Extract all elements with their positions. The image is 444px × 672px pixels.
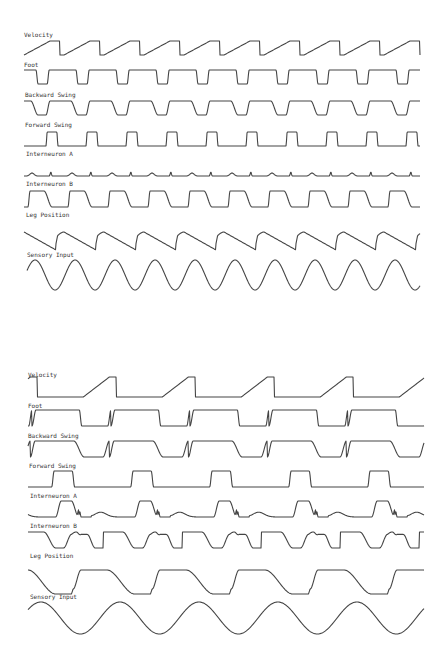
trace-sensory-input xyxy=(28,602,424,634)
trace-interneuron-a xyxy=(28,501,424,517)
trace-leg-position xyxy=(28,570,424,594)
label-foot: Foot xyxy=(24,61,39,68)
trace-backward-swing xyxy=(28,441,424,457)
trace-foot xyxy=(24,70,420,84)
label-leg-position: Leg Position xyxy=(26,211,70,219)
trace-foot xyxy=(28,410,424,426)
label-velocity: Velocity xyxy=(24,31,53,39)
trace-backward-swing xyxy=(24,101,420,115)
trace-velocity xyxy=(28,377,424,397)
label-leg-position: Leg Position xyxy=(30,552,74,560)
label-foot: Foot xyxy=(28,402,43,409)
label-interneuron-b: Interneuron B xyxy=(30,522,77,529)
trace-velocity xyxy=(24,41,420,55)
trace-interneuron-a xyxy=(24,172,420,176)
top-panel: Velocity Foot Backward Swing Forward Swi… xyxy=(24,31,420,290)
trace-figure: Velocity Foot Backward Swing Forward Swi… xyxy=(0,0,444,672)
label-interneuron-b: Interneuron B xyxy=(26,180,73,187)
trace-sensory-input xyxy=(27,260,420,290)
label-forward-swing: Forward Swing xyxy=(25,121,72,129)
label-backward-swing: Backward Swing xyxy=(28,432,79,440)
trace-interneuron-b xyxy=(28,532,424,548)
label-interneuron-a: Interneuron A xyxy=(26,150,73,157)
label-velocity: Velocity xyxy=(28,371,57,379)
trace-interneuron-b xyxy=(24,191,420,207)
label-forward-swing: Forward Swing xyxy=(29,462,76,470)
bottom-panel: Velocity Foot Backward Swing Forward Swi… xyxy=(28,371,424,634)
trace-leg-position xyxy=(24,232,420,250)
label-sensory-input: Sensory Input xyxy=(27,251,74,259)
trace-forward-swing xyxy=(28,471,424,487)
trace-forward-swing xyxy=(24,132,420,146)
label-backward-swing: Backward Swing xyxy=(25,91,76,99)
label-interneuron-a: Interneuron A xyxy=(30,492,77,499)
